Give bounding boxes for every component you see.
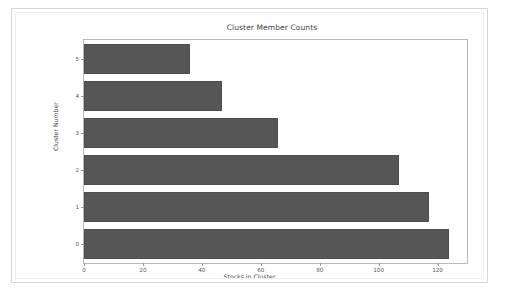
bar-cluster-1 bbox=[84, 192, 429, 222]
bar-row bbox=[84, 81, 467, 111]
chart-title: Cluster Member Counts bbox=[72, 23, 472, 32]
bar-cluster-2 bbox=[84, 155, 399, 185]
bar-cluster-3 bbox=[84, 118, 278, 148]
x-tick-label-0: 0 bbox=[82, 263, 86, 273]
bar-cluster-0 bbox=[84, 229, 449, 259]
x-tick-label-60: 60 bbox=[257, 263, 264, 273]
y-tick-label-3: 3 bbox=[44, 130, 84, 136]
y-axis-label: Cluster Number bbox=[52, 102, 59, 151]
y-tick-label-4: 4 bbox=[44, 93, 84, 99]
y-tick-label-5: 5 bbox=[44, 56, 84, 62]
bar-row bbox=[84, 44, 467, 74]
plot-area: 012345020406080100120 bbox=[84, 40, 467, 263]
figure-card: Cluster Member Counts 012345020406080100… bbox=[11, 8, 488, 283]
bar-row bbox=[84, 192, 467, 222]
bar-cluster-4 bbox=[84, 81, 222, 111]
bar-row bbox=[84, 118, 467, 148]
y-tick-label-1: 1 bbox=[44, 204, 84, 210]
bar-row bbox=[84, 155, 467, 185]
x-tick-label-40: 40 bbox=[198, 263, 205, 273]
bar-cluster-5 bbox=[84, 44, 190, 74]
x-tick-label-120: 120 bbox=[432, 263, 443, 273]
plot-frame: 012345020406080100120 bbox=[83, 39, 468, 264]
bar-row bbox=[84, 229, 467, 259]
x-tick-label-20: 20 bbox=[139, 263, 146, 273]
x-tick-label-100: 100 bbox=[373, 263, 384, 273]
x-axis-label: Stocks in Cluster bbox=[12, 273, 487, 280]
y-tick-label-0: 0 bbox=[44, 241, 84, 247]
y-tick-label-2: 2 bbox=[44, 167, 84, 173]
x-tick-label-80: 80 bbox=[316, 263, 323, 273]
